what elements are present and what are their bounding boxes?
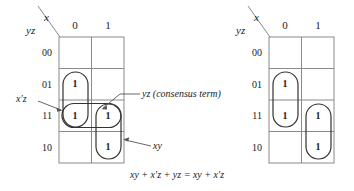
leader-yz-consensus — [103, 94, 140, 108]
right-kmap-column-header-0: 0 — [277, 20, 293, 31]
left-kmap-row-header-00: 00 — [28, 48, 52, 58]
left-kmap-annotation-leaders — [38, 94, 151, 146]
right-kmap-column-header-1: 1 — [310, 20, 326, 31]
left-kmap-column-header-0: 0 — [67, 20, 83, 31]
left-kmap-row-header-11: 11 — [28, 111, 52, 121]
leader-xy — [125, 140, 151, 146]
figure-consensus-theorem: x yz 0 1 00 01 11 10 1 1 1 1 x′z yz (con… — [0, 0, 354, 191]
right-kmap-header-diagonal — [248, 6, 270, 37]
right-kmap-row-header-01: 01 — [238, 80, 262, 90]
right-kmap-cell-11-0: 1 — [277, 111, 293, 121]
consensus-equation: xy + x′z + yz = xy + x′z — [0, 170, 354, 180]
left-kmap-column-header-1: 1 — [100, 20, 116, 31]
left-kmap-row-header-10: 10 — [28, 143, 52, 153]
left-kmap-column-variable: x — [44, 12, 49, 23]
left-kmap-header-diagonal — [38, 6, 60, 37]
right-kmap-cell-11-1: 1 — [310, 111, 326, 121]
left-kmap-cell-11-1: 1 — [100, 111, 116, 121]
right-kmap-row-header-10: 10 — [238, 143, 262, 153]
left-kmap-row-variable: yz — [26, 25, 35, 36]
right-kmap-row-header-11: 11 — [238, 111, 262, 121]
left-kmap-cell-01-0: 1 — [67, 79, 83, 89]
right-kmap-cell-01-0: 1 — [277, 79, 293, 89]
left-kmap-cell-10-1: 1 — [100, 142, 116, 152]
right-kmap-row-variable: yz — [236, 25, 245, 36]
left-kmap-cell-11-0: 1 — [67, 111, 83, 121]
right-kmap-column-variable: x — [254, 12, 259, 23]
annotation-xy: xy — [153, 141, 162, 151]
right-kmap-cell-10-1: 1 — [310, 142, 326, 152]
left-kmap-row-header-01: 01 — [28, 80, 52, 90]
annotation-yz-consensus: yz (consensus term) — [142, 89, 221, 99]
annotation-x-prime-z: x′z — [16, 94, 27, 104]
right-kmap-row-header-00: 00 — [238, 48, 262, 58]
